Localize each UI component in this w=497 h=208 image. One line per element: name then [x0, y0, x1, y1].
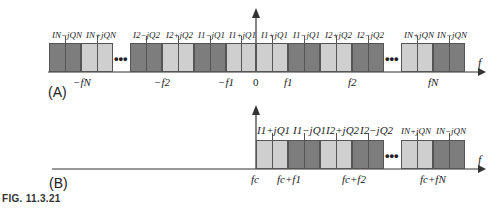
- spectrum-block-b-1: [288, 140, 320, 169]
- spectrum-block-a-7: [288, 43, 320, 72]
- tick-a-f2: f2: [348, 76, 357, 88]
- block-label-a-4: I1−jQ1: [198, 30, 225, 40]
- block-label-a-5: I1+jQ1: [229, 30, 256, 40]
- block-label-a-9: I2−jQ2: [357, 30, 384, 40]
- spectrum-block-a-5: [226, 43, 256, 72]
- tick-a-f1: f1: [284, 76, 293, 88]
- spectrum-block-b-2: [320, 140, 352, 169]
- tick-b-fc: fc: [251, 173, 259, 185]
- spectrum-block-a-8: [320, 43, 352, 72]
- ellipsis-b: •••: [385, 148, 399, 163]
- spectrum-diagram: IN−jQN IN+jQN I2−jQ2 I2+jQ2 I1−jQ1 I1+jQ…: [0, 0, 497, 208]
- figure-caption: FIG. 11.3.21: [2, 193, 61, 204]
- spectrum-block-a-10: [401, 43, 433, 72]
- tick-a-fn: fN: [428, 76, 438, 88]
- panel-b-vertical-arrowhead: [252, 105, 260, 115]
- axis-label-b-f: f: [478, 153, 481, 168]
- block-label-b-4: IN+jQN: [401, 126, 431, 136]
- block-label-b-2: I2+jQ2: [326, 124, 359, 136]
- tick-a-neg-fn: −fN: [73, 76, 91, 88]
- block-label-a-7: I1−jQ1: [293, 30, 320, 40]
- spectrum-block-a-9: [352, 43, 384, 72]
- spectrum-block-a-2: [130, 43, 162, 72]
- tick-b-fc-fn: fc+fN: [420, 173, 446, 185]
- panel-a-vertical-arrowhead: [252, 8, 260, 18]
- tick-a-neg-f1: −f1: [218, 76, 234, 88]
- block-label-a-0: IN−jQN: [52, 30, 82, 40]
- tick-b-fc-f2: fc+f2: [342, 173, 366, 185]
- spectrum-block-a-1: [81, 43, 113, 72]
- axis-label-a-f: f: [478, 56, 481, 71]
- block-label-b-3: I2−jQ2: [360, 124, 393, 136]
- ellipsis-a-left: •••: [114, 51, 128, 66]
- spectrum-block-a-3: [162, 43, 194, 72]
- block-label-a-11: IN−jQN: [437, 30, 467, 40]
- panel-label-a: (A): [48, 84, 67, 100]
- spectrum-block-a-6: [256, 43, 288, 72]
- tick-a-neg-f2: −f2: [154, 76, 170, 88]
- spectrum-block-a-11: [433, 43, 465, 72]
- spectrum-block-a-0: [49, 43, 81, 72]
- spectrum-block-b-3: [352, 140, 384, 169]
- ellipsis-a-right: •••: [385, 51, 399, 66]
- tick-b-fc-f1: fc+f1: [277, 173, 301, 185]
- block-label-a-3: I2+jQ2: [166, 30, 193, 40]
- spectrum-block-b-0: [256, 140, 288, 169]
- block-label-a-2: I2−jQ2: [133, 30, 160, 40]
- panel-label-b: (B): [49, 175, 68, 191]
- block-label-b-1: I1−jQ1: [293, 124, 326, 136]
- block-label-a-8: I2+jQ2: [325, 30, 352, 40]
- spectrum-block-b-4: [401, 140, 433, 169]
- block-label-a-1: IN+jQN: [86, 30, 116, 40]
- block-label-b-5: IN−jQN: [436, 126, 466, 136]
- spectrum-block-b-5: [433, 140, 465, 169]
- block-label-b-0: I1+jQ1: [257, 124, 290, 136]
- block-label-a-10: IN+jQN: [404, 30, 434, 40]
- spectrum-block-a-4: [194, 43, 226, 72]
- tick-a-zero: 0: [253, 76, 259, 88]
- block-label-a-6: I1+jQ1: [261, 30, 288, 40]
